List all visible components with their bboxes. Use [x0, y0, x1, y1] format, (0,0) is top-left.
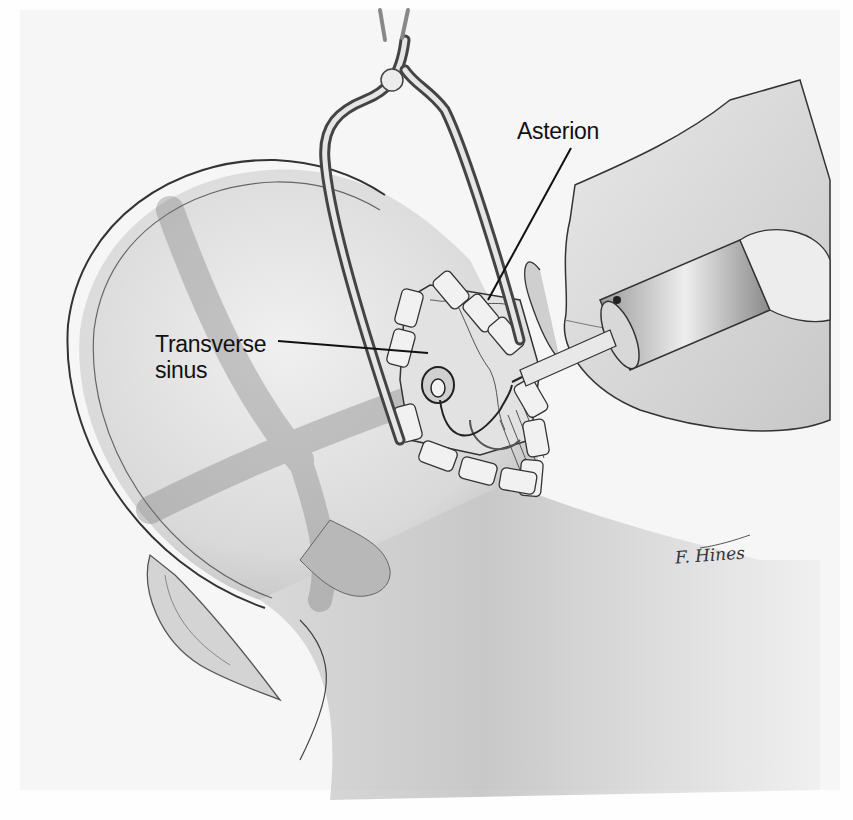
label-transverse-sinus: Transverse sinus: [155, 331, 295, 383]
illustration-canvas: Asterion Transverse sinus F. Hines: [0, 0, 853, 820]
label-transverse-line2: sinus: [155, 357, 295, 383]
label-asterion: Asterion: [517, 118, 599, 144]
label-transverse-line1: Transverse: [155, 331, 295, 357]
surgical-drawing: [0, 0, 853, 820]
